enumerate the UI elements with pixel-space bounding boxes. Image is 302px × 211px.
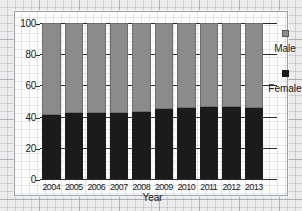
bar-column[interactable] xyxy=(108,23,131,179)
chart-panel: 020406080100 200420052006200720082009201… xyxy=(14,11,288,196)
bar-column[interactable] xyxy=(220,23,243,179)
bar-segment-female[interactable] xyxy=(132,112,151,179)
y-tick-label-40: 40 xyxy=(25,113,36,123)
female-swatch-icon xyxy=(282,70,289,77)
male-swatch-icon xyxy=(282,30,289,37)
bar-column[interactable] xyxy=(243,23,266,179)
stacked-bar[interactable] xyxy=(110,23,129,179)
bar-segment-female[interactable] xyxy=(65,113,84,179)
bar-segment-female[interactable] xyxy=(110,113,129,179)
legend-item-female[interactable]: Female xyxy=(263,70,302,96)
stacked-bar[interactable] xyxy=(42,23,61,179)
bar-segment-male[interactable] xyxy=(245,23,264,108)
y-tick-label-0: 0 xyxy=(31,175,36,185)
bar-column[interactable] xyxy=(40,23,63,179)
legend-label-female: Female xyxy=(268,83,301,94)
bar-segment-male[interactable] xyxy=(42,23,61,115)
y-tick-label-20: 20 xyxy=(25,144,36,154)
chart-legend: Male Female xyxy=(263,30,302,110)
bar-segment-female[interactable] xyxy=(177,108,196,179)
x-axis-title: Year xyxy=(40,192,265,203)
bar-segment-male[interactable] xyxy=(65,23,84,113)
stacked-bar[interactable] xyxy=(200,23,219,179)
stacked-bar[interactable] xyxy=(222,23,241,179)
bar-segment-male[interactable] xyxy=(110,23,129,113)
bar-segment-female[interactable] xyxy=(87,113,106,179)
bar-segment-male[interactable] xyxy=(155,23,174,109)
bar-column[interactable] xyxy=(153,23,176,179)
stacked-bar[interactable] xyxy=(65,23,84,179)
bar-column[interactable] xyxy=(175,23,198,179)
bar-segment-male[interactable] xyxy=(222,23,241,107)
bar-segment-female[interactable] xyxy=(222,107,241,179)
bar-column[interactable] xyxy=(85,23,108,179)
bar-segment-female[interactable] xyxy=(245,108,264,179)
bar-column[interactable] xyxy=(198,23,221,179)
stacked-bar[interactable] xyxy=(177,23,196,179)
bar-segment-female[interactable] xyxy=(42,115,61,179)
plot-area: 020406080100 xyxy=(40,23,265,179)
legend-item-male[interactable]: Male xyxy=(263,30,302,56)
y-tick-label-80: 80 xyxy=(25,50,36,60)
bar-column[interactable] xyxy=(130,23,153,179)
bar-series-group xyxy=(40,23,265,179)
stacked-bar[interactable] xyxy=(132,23,151,179)
stacked-bar[interactable] xyxy=(87,23,106,179)
bar-column[interactable] xyxy=(63,23,86,179)
gridline-0: 0 xyxy=(40,179,277,180)
stacked-bar[interactable] xyxy=(155,23,174,179)
y-tick-label-60: 60 xyxy=(25,81,36,91)
bar-segment-female[interactable] xyxy=(155,109,174,179)
y-tick-label-100: 100 xyxy=(20,19,36,29)
legend-label-male: Male xyxy=(274,43,296,54)
bar-segment-male[interactable] xyxy=(177,23,196,108)
stacked-bar[interactable] xyxy=(245,23,264,179)
bar-segment-male[interactable] xyxy=(200,23,219,107)
bar-segment-male[interactable] xyxy=(132,23,151,112)
bar-segment-male[interactable] xyxy=(87,23,106,113)
bar-segment-female[interactable] xyxy=(200,107,219,179)
